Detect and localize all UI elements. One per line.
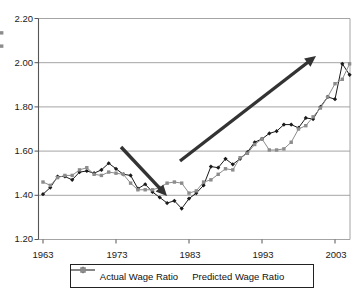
square-marker-icon [71, 265, 95, 275]
axis-lines [39, 19, 351, 240]
legend-label: Actual Wage Ratio [100, 271, 178, 282]
rising-trend-arrow [180, 56, 316, 161]
data-series-layer [0, 31, 352, 210]
legend-item-actual-wage-ratio: Actual Wage Ratio [100, 271, 178, 282]
series-predicted-wage-ratio [0, 31, 351, 195]
wage-ratio-line-chart: 2.20 2.00 1.80 1.60 1.40 1.20 1963 1973 … [0, 0, 360, 301]
legend-label: Predicted Wage Ratio [192, 271, 284, 282]
series-actual-wage-ratio [41, 62, 352, 211]
legend-item-predicted-wage-ratio: Predicted Wage Ratio [192, 271, 284, 282]
plot-area [0, 0, 360, 301]
axis-ticks [35, 19, 336, 244]
chart-legend: Actual Wage Ratio Predicted Wage Ratio [70, 264, 314, 288]
gridlines [39, 19, 351, 240]
